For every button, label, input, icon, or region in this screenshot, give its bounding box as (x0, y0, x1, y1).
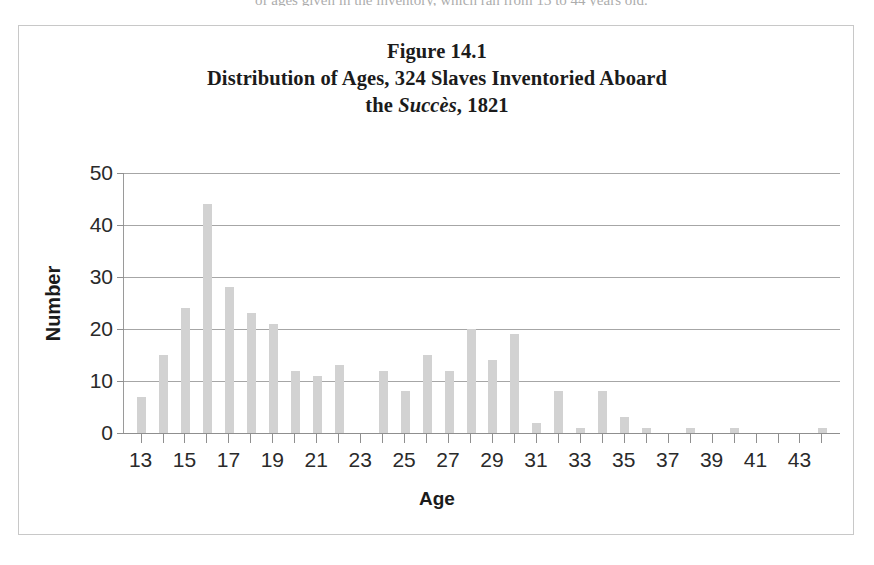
x-tick-label: 39 (700, 448, 723, 472)
x-tick-label: 35 (612, 448, 635, 472)
bar (335, 365, 344, 433)
scan-edge-artifact: of ages given in the inventory, which ra… (255, 0, 874, 6)
y-tick-label: 40 (90, 213, 113, 237)
y-axis-title-label: Number (43, 265, 66, 341)
x-tick-mark (558, 434, 559, 443)
x-tick-mark (756, 434, 757, 443)
figure-frame: Figure 14.1 Distribution of Ages, 324 Sl… (18, 25, 854, 535)
bar (488, 360, 497, 433)
x-tick-mark (799, 434, 800, 443)
x-tick-mark (228, 434, 229, 443)
x-tick-label: 23 (349, 448, 372, 472)
x-tick-mark (206, 434, 207, 443)
x-tick-mark (250, 434, 251, 443)
x-tick-label: 25 (392, 448, 415, 472)
x-tick-mark (712, 434, 713, 443)
x-tick-label: 33 (568, 448, 591, 472)
x-tick-label: 27 (436, 448, 459, 472)
x-tick-label: 29 (480, 448, 503, 472)
bar (379, 371, 388, 433)
y-tick-label: 10 (90, 369, 113, 393)
y-axis-title: Number (41, 173, 67, 433)
x-tick-mark (272, 434, 273, 443)
x-tick-mark (382, 434, 383, 443)
x-tick-mark (536, 434, 537, 443)
x-tick-label: 17 (217, 448, 240, 472)
x-tick-label: 19 (261, 448, 284, 472)
x-tick-mark (163, 434, 164, 443)
x-tick-labels-group: 13151719212325272931333537394143 (123, 448, 839, 478)
x-tick-label: 13 (129, 448, 152, 472)
plot-area: 01020304050 (123, 173, 840, 433)
x-tick-mark (668, 434, 669, 443)
y-tick-mark (117, 173, 124, 174)
bar (203, 204, 212, 433)
x-tick-mark (602, 434, 603, 443)
y-tick-mark (117, 277, 124, 278)
x-tick-label: 21 (305, 448, 328, 472)
bar (423, 355, 432, 433)
x-tick-mark (821, 434, 822, 443)
bar (598, 391, 607, 433)
x-tick-mark (734, 434, 735, 443)
y-tick-label: 20 (90, 317, 113, 341)
bar (181, 308, 190, 433)
gridline (124, 277, 840, 278)
bar (291, 371, 300, 433)
x-tick-mark (448, 434, 449, 443)
bar (532, 423, 541, 433)
x-tick-mark (470, 434, 471, 443)
x-tick-mark (778, 434, 779, 443)
gridline (124, 173, 840, 174)
x-tick-mark (580, 434, 581, 443)
bar (269, 324, 278, 433)
bar (620, 417, 629, 433)
x-tick-label: 43 (788, 448, 811, 472)
x-tick-label: 37 (656, 448, 679, 472)
y-tick-label: 0 (101, 421, 113, 445)
bar (554, 391, 563, 433)
chart-canvas: Number 01020304050 131517192123252729313… (19, 26, 855, 536)
y-tick-mark (117, 225, 124, 226)
x-tick-mark (360, 434, 361, 443)
y-tick-mark (117, 381, 124, 382)
x-tick-mark (426, 434, 427, 443)
bar (467, 329, 476, 433)
x-tick-mark (338, 434, 339, 443)
bar (510, 334, 519, 433)
x-tick-mark (184, 434, 185, 443)
y-tick-mark (117, 329, 124, 330)
x-tick-mark (141, 434, 142, 443)
gridline (124, 225, 840, 226)
bar (247, 313, 256, 433)
x-tick-label: 31 (524, 448, 547, 472)
bar (313, 376, 322, 433)
x-tick-mark (404, 434, 405, 443)
bar (445, 371, 454, 433)
y-tick-label: 30 (90, 265, 113, 289)
x-tick-mark (514, 434, 515, 443)
x-tick-mark (492, 434, 493, 443)
bar (137, 397, 146, 433)
x-tick-mark (690, 434, 691, 443)
x-tick-mark (646, 434, 647, 443)
x-axis-title: Age (19, 488, 855, 510)
y-tick-label: 50 (90, 161, 113, 185)
bar (159, 355, 168, 433)
bar (225, 287, 234, 433)
x-tick-mark (624, 434, 625, 443)
x-tick-label: 15 (173, 448, 196, 472)
x-tick-marks-group (123, 434, 839, 444)
x-tick-label: 41 (744, 448, 767, 472)
x-tick-mark (316, 434, 317, 443)
bar (401, 391, 410, 433)
x-tick-mark (294, 434, 295, 443)
